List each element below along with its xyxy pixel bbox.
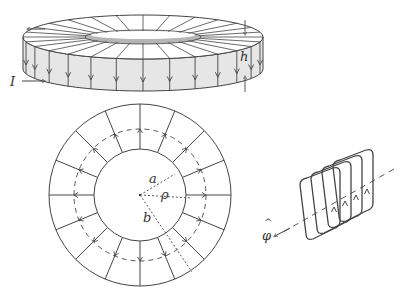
spoke-line xyxy=(76,228,108,260)
up-arrow-icon xyxy=(365,189,370,194)
current-label: I xyxy=(9,74,16,89)
up-arrow-icon xyxy=(354,195,359,200)
label-a: a xyxy=(149,171,157,186)
height-label: h xyxy=(240,49,248,64)
radius-a-line xyxy=(140,174,175,195)
spoke-line xyxy=(56,213,98,230)
up-arrow-icon xyxy=(332,207,337,212)
spoke-line xyxy=(105,237,122,279)
spoke-line xyxy=(173,228,205,260)
coil-diagram: ^ φ xyxy=(262,150,394,243)
spoke-line xyxy=(158,111,175,153)
phi-axis-arrow xyxy=(275,228,290,236)
phi-hat-label: φ xyxy=(262,228,272,243)
label-b: b xyxy=(143,210,151,225)
label-rho: ρ xyxy=(160,187,169,202)
spoke-line xyxy=(182,160,224,177)
toroid-diagram: I h a ρ b ^ φ xyxy=(0,0,415,300)
coil-loop xyxy=(333,150,373,222)
center-point xyxy=(139,194,141,196)
spoke-line xyxy=(76,131,108,163)
phi-axis-dashed xyxy=(283,169,394,232)
spoke-line xyxy=(173,131,205,163)
phi-hat-caret: ^ xyxy=(264,216,272,227)
toroid-top-view: a ρ b xyxy=(49,104,231,286)
up-arrow-icon xyxy=(343,201,348,206)
toroid-3d: I h xyxy=(9,15,263,92)
